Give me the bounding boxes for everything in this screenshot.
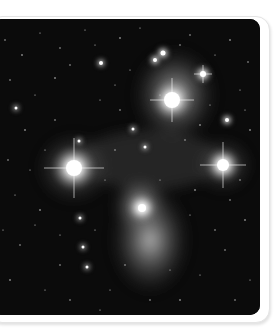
pleiades-photo: [0, 19, 260, 315]
star-field-image: [0, 19, 260, 315]
